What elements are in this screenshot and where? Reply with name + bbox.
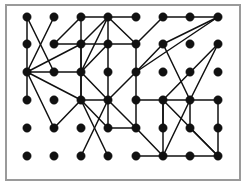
graph-node [159, 40, 167, 48]
graph-node [77, 40, 85, 48]
graph-node [186, 124, 194, 132]
graph-node [214, 68, 222, 76]
graph-node [77, 96, 85, 104]
graph-node [159, 152, 167, 160]
graph-node [104, 96, 112, 104]
graph-node [186, 68, 194, 76]
graph-node [23, 124, 31, 132]
graph-node [132, 13, 140, 21]
graph-node [50, 13, 58, 21]
graph-node [77, 124, 85, 132]
graph-node [23, 68, 31, 76]
graph-node [23, 13, 31, 21]
graph-node [104, 68, 112, 76]
graph-node [50, 152, 58, 160]
graph-node [132, 96, 140, 104]
graph-node [214, 13, 222, 21]
graph-node [104, 152, 112, 160]
graph-node [214, 40, 222, 48]
graph-node [214, 152, 222, 160]
graph-node [214, 96, 222, 104]
graph-node [77, 68, 85, 76]
graph-node [132, 124, 140, 132]
graph-node [23, 152, 31, 160]
graph-canvas [0, 0, 247, 186]
graph-node [159, 13, 167, 21]
graph-node [159, 124, 167, 132]
graph-node [159, 68, 167, 76]
graph-node [132, 40, 140, 48]
graph-node [159, 96, 167, 104]
graph-node [50, 40, 58, 48]
graph-node [50, 96, 58, 104]
graph-node [104, 40, 112, 48]
graph-node [77, 13, 85, 21]
graph-node [50, 124, 58, 132]
graph-node [186, 96, 194, 104]
graph-node [23, 40, 31, 48]
graph-figure [0, 0, 247, 186]
graph-node [214, 124, 222, 132]
graph-node [132, 68, 140, 76]
graph-node [186, 40, 194, 48]
graph-node [132, 152, 140, 160]
graph-node [77, 152, 85, 160]
graph-node [186, 152, 194, 160]
graph-node [104, 13, 112, 21]
graph-node [50, 68, 58, 76]
graph-node [23, 96, 31, 104]
graph-node [104, 124, 112, 132]
graph-node [186, 13, 194, 21]
